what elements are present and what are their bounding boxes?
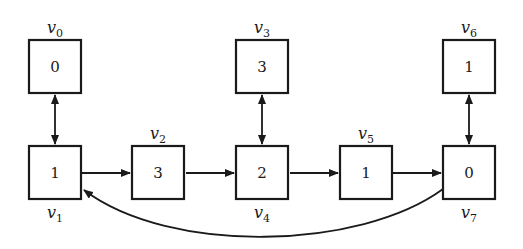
node-v0: 0 v0: [29, 18, 81, 93]
node-v2: 3 v2: [132, 124, 184, 199]
node-v7: 0 v7: [443, 146, 495, 225]
node-value: 0: [50, 58, 60, 76]
node-label: v7: [461, 203, 477, 225]
node-v3: 3 v3: [236, 18, 288, 93]
node-value: 2: [257, 164, 267, 182]
node-label: v0: [47, 18, 63, 40]
node-value: 1: [464, 58, 474, 76]
node-value: 1: [50, 164, 60, 182]
node-v5: 1 v5: [340, 124, 392, 199]
node-v4: 2 v4: [236, 146, 288, 225]
node-label: v3: [254, 18, 270, 40]
node-label: v5: [358, 124, 374, 146]
graph-diagram: 0 v0 1 v1 3 v2 3 v3 2 v4 1 v5 1 v6 0 v7: [0, 0, 523, 249]
node-v1: 1 v1: [29, 146, 81, 225]
node-value: 1: [361, 164, 371, 182]
node-value: 0: [464, 164, 474, 182]
node-v6: 1 v6: [443, 18, 495, 93]
node-label: v6: [461, 18, 477, 40]
node-value: 3: [153, 164, 163, 182]
node-label: v2: [150, 124, 166, 146]
node-label: v4: [254, 203, 270, 225]
node-value: 3: [257, 58, 267, 76]
node-label: v1: [47, 203, 63, 225]
